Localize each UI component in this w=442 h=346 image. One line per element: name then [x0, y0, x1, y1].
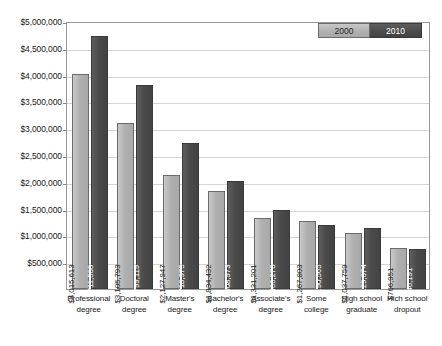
bar-group: $1,037,759$1,129,074: [345, 23, 381, 289]
x-axis-category-label: Somecollege: [294, 294, 340, 315]
bar-group: $1,267,803$1,190,565: [299, 23, 335, 289]
y-axis-tick-label: $5,000,000: [20, 17, 62, 27]
legend-item-2010[interactable]: 2010: [370, 23, 422, 38]
category-label-line: graduate: [339, 305, 385, 316]
legend-label-2000: 2000: [335, 26, 354, 36]
category-label-line: Some: [294, 294, 340, 305]
bar-2010[interactable]: $4,711,500: [91, 36, 108, 289]
bars-layer: $4,015,613$4,711,500$3,105,793$3,799,119…: [67, 23, 429, 289]
chart-legend: 2000 2010: [318, 23, 422, 38]
bar-group: $1,834,432$2,008,973: [208, 23, 244, 289]
x-axis-category-labels: ProfessionaldegreeDoctoraldegreeMaster's…: [66, 294, 430, 330]
y-axis-tick-label: $2,000,000: [20, 178, 62, 188]
bar-group: $766,951$746,191: [390, 23, 426, 289]
category-label-line: Doctoral: [112, 294, 158, 305]
bar-2010[interactable]: $2,008,973: [227, 181, 244, 289]
bar-group: $4,015,613$4,711,500: [72, 23, 108, 289]
plot-area: $4,015,613$4,711,500$3,105,793$3,799,119…: [66, 22, 430, 290]
x-axis-category-label: Professionaldegree: [66, 294, 112, 315]
bar-2010[interactable]: $746,191: [409, 249, 426, 289]
x-axis-category-label: Doctoraldegree: [112, 294, 158, 315]
bar-2010[interactable]: $2,718,375: [182, 143, 199, 289]
y-axis-tick-label: $500,000: [27, 258, 62, 268]
category-label-line: degree: [248, 305, 294, 316]
x-axis-category-label: Master'sdegree: [157, 294, 203, 315]
bar-2010[interactable]: $3,799,119: [136, 85, 153, 289]
category-label-line: Professional: [66, 294, 112, 305]
category-label-line: Associate's: [248, 294, 294, 305]
legend-label-2010: 2010: [386, 26, 405, 36]
bar-2000[interactable]: $4,015,613: [72, 74, 89, 289]
legend-item-2000[interactable]: 2000: [318, 23, 370, 38]
bar-group: $3,105,793$3,799,119: [117, 23, 153, 289]
category-label-line: degree: [112, 305, 158, 316]
bar-2010[interactable]: $1,466,270: [273, 210, 290, 289]
category-label-line: dropout: [385, 305, 431, 316]
bar-group: $2,127,947$2,718,375: [163, 23, 199, 289]
x-axis-category-label: Hich schooldropout: [385, 294, 431, 315]
category-label-line: degree: [66, 305, 112, 316]
category-label-line: Bachelor's: [203, 294, 249, 305]
y-axis-tick-label: $2,500,000: [20, 151, 62, 161]
category-label-line: Master's: [157, 294, 203, 305]
x-axis-category-label: Bachelor'sdegree: [203, 294, 249, 315]
category-label-line: college: [294, 305, 340, 316]
bar-group: $1,331,201$1,466,270: [254, 23, 290, 289]
bar-2010[interactable]: $1,129,074: [364, 228, 381, 289]
y-axis-tick-label: $3,500,000: [20, 97, 62, 107]
y-axis-labels: $500,000$1,000,000$1,500,000$2,000,000$2…: [0, 22, 62, 290]
category-label-line: degree: [157, 305, 203, 316]
y-axis-tick-label: $1,000,000: [20, 231, 62, 241]
y-axis-tick-label: $4,500,000: [20, 44, 62, 54]
category-label-line: High school: [339, 294, 385, 305]
category-label-line: degree: [203, 305, 249, 316]
x-axis-category-label: Associate'sdegree: [248, 294, 294, 315]
y-axis-tick-label: $4,000,000: [20, 71, 62, 81]
category-label-line: Hich school: [385, 294, 431, 305]
x-axis-category-label: High schoolgraduate: [339, 294, 385, 315]
bar-chart: $500,000$1,000,000$1,500,000$2,000,000$2…: [0, 0, 442, 346]
bar-2010[interactable]: $1,190,565: [318, 225, 335, 289]
y-axis-tick-label: $1,500,000: [20, 205, 62, 215]
y-axis-tick-label: $3,000,000: [20, 124, 62, 134]
